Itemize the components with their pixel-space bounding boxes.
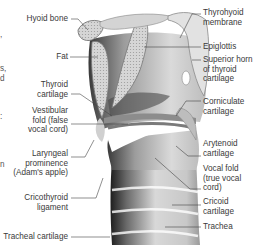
label-hyoid-bone: Hyoid bone xyxy=(27,14,68,24)
label-vestibular-fold: Vestibular fold (false vocal cord) xyxy=(28,106,68,135)
cropped-edge-text: n xyxy=(0,160,5,169)
cropped-edge-text: s, xyxy=(0,64,6,73)
label-vocal-fold: Vocal fold (true vocal cord) xyxy=(203,164,241,193)
larynx-diagram: , s, d : n Hyoid bone Fat Thyroid cartil… xyxy=(0,0,262,245)
label-laryngeal-prominence: Laryngeal prominence (Adam's apple) xyxy=(13,149,68,178)
label-tracheal-cartilage: Tracheal cartilage xyxy=(3,232,68,242)
label-cricoid-cartilage: Cricoid cartilage xyxy=(203,197,234,216)
cropped-edge-text: : xyxy=(0,112,2,121)
label-trachea: Trachea xyxy=(203,222,233,232)
cropped-edge-text: , xyxy=(0,30,2,39)
label-cricothyroid-ligament: Cricothyroid ligament xyxy=(24,193,68,212)
cropped-edge-text: d xyxy=(0,74,5,83)
label-corniculate-cartilage: Corniculate cartilage xyxy=(203,97,244,116)
label-thyrohyoid-membrane: Thyrohyoid membrane xyxy=(203,8,244,27)
label-epiglottis: Epiglottis xyxy=(203,42,236,52)
label-arytenoid-cartilage: Arytenoid cartilage xyxy=(203,139,238,158)
label-fat: Fat xyxy=(56,52,68,62)
label-superior-horn: Superior horn of thyroid cartilage xyxy=(203,55,253,84)
label-thyroid-cartilage: Thyroid cartilage xyxy=(37,80,68,99)
